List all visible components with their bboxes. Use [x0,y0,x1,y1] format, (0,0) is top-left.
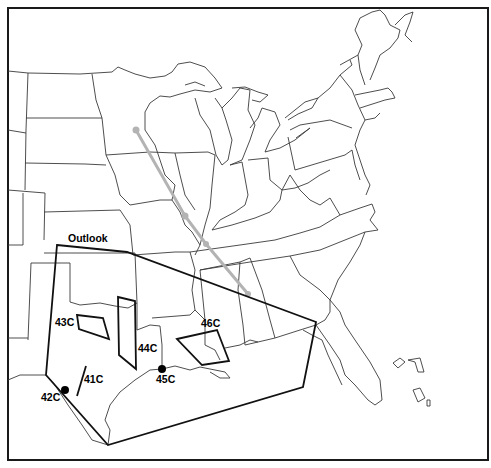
outlook-map: Outlook 41C 42C 43C 44C 45C 46C [0,0,491,468]
area-42c[interactable] [61,386,69,394]
area-43c[interactable] [77,315,109,339]
area-43c-label: 43C [55,316,75,328]
outlook-area[interactable] [46,245,316,445]
area-46c[interactable] [177,330,229,365]
area-45c-label: 45C [156,373,176,385]
track-point [133,127,140,134]
area-42c-label: 42C [41,391,61,403]
track-line [136,130,248,294]
area-44c-label: 44C [138,342,158,354]
track-point [203,241,209,247]
track-point [182,213,189,220]
area-45c[interactable] [158,365,166,373]
state-borders [8,10,430,445]
outlook-label: Outlook [68,232,108,244]
area-41c-label: 41C [84,373,104,385]
area-46c-label: 46C [201,317,221,329]
